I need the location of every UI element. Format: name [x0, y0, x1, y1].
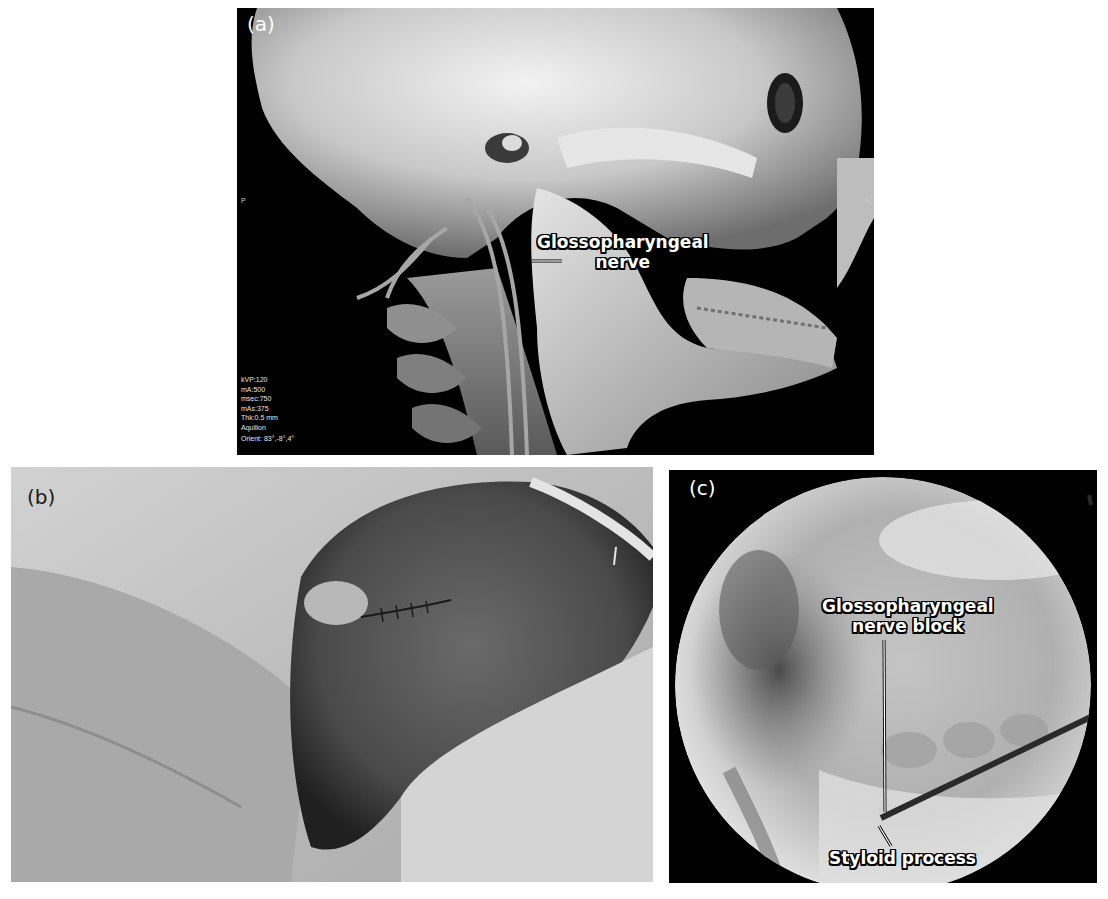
panel-c-fluoroscopy: (c) Glossopharyngeal nerve block Styloid…	[669, 470, 1097, 883]
panel-a-ct-rendering: (a) P A Glossopharyngeal nerve kVP:120 m…	[237, 8, 874, 455]
callout-line-1: Glossopharyngeal	[537, 232, 709, 252]
draped-neck-photo	[11, 467, 653, 882]
fluoroscopy-image	[669, 470, 1097, 883]
orientation-marker-posterior: P	[241, 197, 246, 204]
scan-param-thickness: Thk:0.5 mm	[241, 413, 294, 423]
panel-a-label: (a)	[247, 12, 275, 36]
panel-b-clinical-photo: (b)	[11, 467, 653, 882]
scan-param-mas: mAs:375	[241, 404, 294, 414]
panel-c-label: (c)	[689, 476, 716, 500]
callout-line-2: nerve	[537, 252, 709, 272]
callout-styloid-process: Styloid process	[829, 848, 976, 868]
panel-b-label: (b)	[27, 485, 55, 509]
scan-param-msec: msec:750	[241, 394, 294, 404]
callout-glossopharyngeal-nerve-block: Glossopharyngeal nerve block	[822, 596, 994, 636]
callout-line-1: Glossopharyngeal	[822, 596, 994, 616]
orientation-marker-anterior: A	[865, 197, 870, 204]
scan-param-ma: mA:500	[241, 385, 294, 395]
scan-param-kvp: kVP:120	[241, 375, 294, 385]
scan-param-scanner: Aquilion	[241, 423, 294, 433]
scan-param-orient: Orient: 83°,-8°,4°	[241, 434, 294, 444]
callout-glossopharyngeal-nerve: Glossopharyngeal nerve	[537, 232, 709, 272]
callout-line-2: nerve block	[822, 616, 994, 636]
scan-parameters: kVP:120 mA:500 msec:750 mAs:375 Thk:0.5 …	[241, 375, 294, 444]
